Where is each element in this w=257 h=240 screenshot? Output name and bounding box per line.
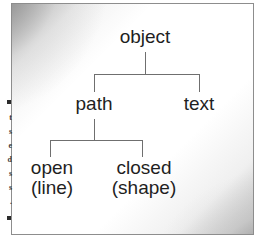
bleed-line-1: s [9,128,12,136]
bullet-marker-top [7,100,11,104]
connector-to-text [199,74,200,92]
connector-level2-bar [50,140,142,141]
figure-panel: object path text open (line) closed (sha… [11,3,254,235]
connector-to-open [50,140,51,157]
node-closed-label: closed [117,157,172,178]
node-open-sublabel: (line) [31,178,73,198]
connector-to-closed [142,140,143,157]
node-closed: closed (shape) [112,158,176,198]
bleed-line-6: . [10,198,12,206]
node-closed-sublabel: (shape) [112,178,176,198]
node-text: text [184,93,215,114]
connector-path-stem [94,119,95,140]
bleed-line-5: s [9,184,12,192]
node-open: open (line) [31,158,73,198]
bleed-line-4: s [9,170,12,178]
connector-to-path [94,74,95,92]
node-object: object [120,26,171,47]
bullet-marker-bottom [7,216,11,220]
bleed-line-0: t [9,114,12,122]
tree-diagram: object path text open (line) closed (sha… [12,4,253,234]
connector-root-stem [145,52,146,74]
node-open-label: open [31,157,73,178]
bleed-line-2: e [8,142,12,150]
connector-level1-bar [94,74,199,75]
bleed-line-3: d [8,156,12,164]
adjacent-text-bleed: t s e d s s . [0,0,14,240]
node-path: path [76,93,113,114]
